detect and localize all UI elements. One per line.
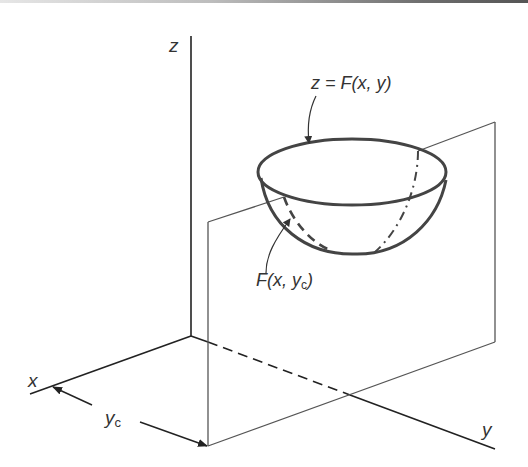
bowl-rim (258, 139, 446, 205)
diagram-canvas: z x y z = F(x, y) F(x, yc) yc (0, 0, 528, 467)
z-axis-label: z (168, 35, 179, 56)
x-axis (30, 336, 191, 394)
bowl-surface (258, 139, 446, 254)
section-curve-label: F(x, yc) (256, 270, 313, 292)
yc-dimension-arrow-left (53, 387, 92, 405)
surface-equation-label: z = F(x, y) (310, 73, 392, 93)
y-axis (350, 395, 495, 449)
yc-dimension-label: yc (103, 407, 122, 430)
section-label-close: ) (305, 270, 313, 290)
cutting-plane (208, 122, 495, 446)
yc-dimension-arrow-right (140, 422, 207, 446)
yc-label-sub: c (115, 415, 122, 430)
y-axis-label: y (480, 419, 493, 440)
bowl-underside (261, 178, 446, 254)
y-axis-front (191, 336, 208, 342)
y-axis-hidden (208, 342, 350, 395)
section-label-main: F(x, (256, 270, 292, 290)
surface-pointer-arrow (308, 96, 316, 143)
x-axis-label: x (27, 370, 39, 391)
